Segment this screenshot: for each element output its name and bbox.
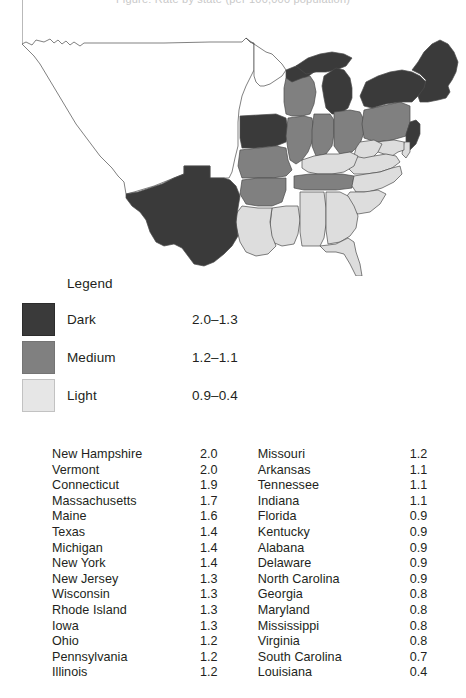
state-name: Delaware — [258, 556, 312, 570]
figure-title: Figure: Rate by state (per 100,000 popul… — [0, 0, 466, 7]
state-name: New Hampshire — [52, 447, 142, 461]
table-row: New York1.4 — [52, 556, 247, 572]
state-value: 1.2 — [410, 447, 428, 461]
legend-item-medium: Medium 1.2–1.1 — [22, 341, 322, 379]
table-row: Mississippi0.8 — [258, 619, 466, 635]
table-row: Arkansas1.1 — [258, 463, 466, 479]
state-name: Vermont — [52, 463, 99, 477]
state-name: North Carolina — [258, 572, 340, 586]
table-column-right: Missouri1.2Arkansas1.1Tennessee1.1Indian… — [247, 447, 466, 681]
table-row: Alabana0.9 — [258, 541, 466, 557]
state-value: 1.2 — [200, 634, 218, 648]
map-region-tennessee — [294, 174, 354, 190]
legend-swatch-medium — [22, 341, 55, 374]
legend: Legend Dark 2.0–1.3 Medium 1.2–1.1 Light… — [22, 276, 322, 417]
table-column-left: New Hampshire2.0Vermont2.0Connecticut1.9… — [0, 447, 247, 681]
table-row: Connecticut1.9 — [52, 478, 247, 494]
state-value: 0.9 — [410, 556, 428, 570]
map-region-louisiana — [236, 206, 276, 256]
legend-item-dark: Dark 2.0–1.3 — [22, 303, 322, 341]
state-name: Maryland — [258, 603, 310, 617]
map-region-iowa — [240, 114, 288, 148]
state-name: Louisiana — [258, 665, 312, 679]
state-value: 1.4 — [200, 556, 218, 570]
state-value: 0.7 — [410, 650, 428, 664]
table-row: Maine1.6 — [52, 509, 247, 525]
state-name: Missouri — [258, 447, 305, 461]
state-value: 1.3 — [200, 619, 218, 633]
state-name: Illinois — [52, 665, 87, 679]
map-region-missouri — [238, 146, 292, 178]
state-name: Arkansas — [258, 463, 311, 477]
state-name: New Jersey — [52, 572, 118, 586]
state-value: 0.8 — [410, 587, 428, 601]
state-name: Florida — [258, 509, 297, 523]
legend-label-light: Light — [67, 388, 97, 403]
table-row: Rhode Island1.3 — [52, 603, 247, 619]
state-name: Indiana — [258, 494, 300, 508]
state-value: 1.3 — [200, 603, 218, 617]
state-value: 1.3 — [200, 572, 218, 586]
table-row: North Carolina0.9 — [258, 572, 466, 588]
map-region-florida — [320, 238, 362, 276]
state-value: 0.9 — [410, 525, 428, 539]
legend-range-medium: 1.2–1.1 — [192, 350, 238, 365]
figure-title-text: Figure: Rate by state (per 100,000 popul… — [0, 0, 466, 5]
table-row: South Carolina0.7 — [258, 650, 466, 666]
state-value: 1.6 — [200, 509, 218, 523]
legend-swatch-dark — [22, 303, 55, 336]
table-row: Illinois1.2 — [52, 665, 247, 681]
table-row: Florida0.9 — [258, 509, 466, 525]
table-row: Indiana1.1 — [258, 494, 466, 510]
state-value: 1.1 — [410, 494, 428, 508]
state-name: Rhode Island — [52, 603, 127, 617]
legend-heading: Legend — [67, 276, 322, 291]
state-name: Maine — [52, 509, 87, 523]
state-value: 0.4 — [410, 665, 428, 679]
state-name: South Carolina — [258, 650, 342, 664]
table-row: Maryland0.8 — [258, 603, 466, 619]
state-name: Massachusetts — [52, 494, 137, 508]
table-row: New Jersey1.3 — [52, 572, 247, 588]
table-row: New Hampshire2.0 — [52, 447, 247, 463]
us-map-svg — [14, 26, 466, 276]
table-row: Missouri1.2 — [258, 447, 466, 463]
table-row: Delaware0.9 — [258, 556, 466, 572]
state-name: Connecticut — [52, 478, 119, 492]
state-name: Texas — [52, 525, 85, 539]
state-value: 0.8 — [410, 603, 428, 617]
state-value: 0.8 — [410, 634, 428, 648]
table-row: Vermont2.0 — [52, 463, 247, 479]
legend-range-light: 0.9–0.4 — [192, 388, 238, 403]
table-row: Michigan1.4 — [52, 541, 247, 557]
map-region-kentucky — [302, 152, 358, 174]
state-name: Michigan — [52, 541, 103, 555]
map-region-indiana — [312, 114, 334, 156]
state-value: 0.8 — [410, 619, 428, 633]
state-value: 1.7 — [200, 494, 218, 508]
state-name: Mississippi — [258, 619, 319, 633]
legend-label-medium: Medium — [67, 350, 116, 365]
state-value: 2.0 — [200, 463, 218, 477]
map-region-alabama — [300, 192, 326, 246]
state-name: Iowa — [52, 619, 79, 633]
choropleth-map — [14, 26, 466, 276]
state-value: 0.9 — [410, 572, 428, 586]
state-value: 1.1 — [410, 478, 428, 492]
state-name: New York — [52, 556, 106, 570]
table-row: Ohio1.2 — [52, 634, 247, 650]
table-row: Iowa1.3 — [52, 619, 247, 635]
state-value: 1.4 — [200, 541, 218, 555]
map-region-illinois — [286, 116, 314, 164]
table-row: Kentucky0.9 — [258, 525, 466, 541]
map-region-wisconsin — [284, 76, 316, 116]
state-name: Alabana — [258, 541, 305, 555]
state-value: 1.2 — [200, 665, 218, 679]
table-row: Tennessee1.1 — [258, 478, 466, 494]
map-region-new-york — [360, 70, 426, 108]
map-region-michigan — [322, 68, 352, 114]
map-region-mississippi — [270, 206, 300, 246]
state-name: Ohio — [52, 634, 79, 648]
state-name: Georgia — [258, 587, 303, 601]
map-region-west — [22, 38, 254, 194]
